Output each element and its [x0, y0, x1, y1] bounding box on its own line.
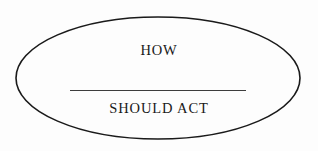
ellipse-outline — [16, 17, 300, 139]
ellipse-shape — [0, 0, 318, 151]
diagram-canvas: HOW SHOULD ACT — [0, 0, 318, 151]
